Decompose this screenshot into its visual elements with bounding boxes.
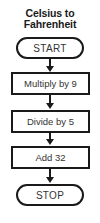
- flowchart-title-line2: Fahrenheit: [0, 19, 100, 30]
- arrowhead-down-icon: [46, 177, 54, 183]
- start-terminal: START: [16, 37, 84, 59]
- stop-terminal: STOP: [16, 184, 84, 206]
- arrowhead-down-icon: [46, 103, 54, 109]
- step-multiply-by-9: Multiply by 9: [11, 72, 90, 95]
- step-add-32: Add 32: [11, 146, 90, 169]
- step-divide-by-5: Divide by 5: [11, 110, 90, 133]
- arrowhead-down-icon: [46, 139, 54, 145]
